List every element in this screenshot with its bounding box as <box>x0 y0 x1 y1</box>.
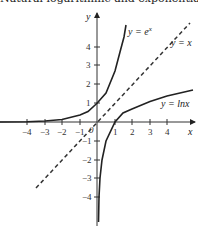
identity-line-label: y = x <box>170 37 192 48</box>
x-tick-label: 3 <box>148 127 153 137</box>
y-axis-label: y <box>85 11 91 22</box>
exp-curve-label: y = ex <box>127 25 153 37</box>
y-tick-label: −2 <box>82 155 92 165</box>
ln-curve-label: y = lnx <box>160 98 190 109</box>
x-tick-label: −2 <box>57 127 67 137</box>
y-tick-label: 3 <box>86 60 91 70</box>
x-tick-label: −4 <box>22 127 32 137</box>
exp-label-base: y = e <box>127 26 149 37</box>
y-tick-label: 4 <box>86 42 91 52</box>
ln-curve <box>99 90 194 222</box>
exp-curve <box>0 25 126 122</box>
x-tick-label: −3 <box>40 127 50 137</box>
y-tick-label: −3 <box>82 173 92 183</box>
exp-label-superscript: x <box>148 25 153 33</box>
y-tick-label: −1 <box>82 136 92 146</box>
x-tick-label: 2 <box>130 127 135 137</box>
y-tick-label: −4 <box>82 192 92 202</box>
y-tick-label: 1 <box>86 98 91 108</box>
y-tick-label: 2 <box>86 79 91 89</box>
chart-canvas: −4 −3 −2 −1 1 2 3 4 4 3 2 1 −1 −2 −3 −4 … <box>0 0 198 229</box>
x-tick-label: 4 <box>165 127 170 137</box>
x-axis-label: x <box>187 126 193 137</box>
x-tick-label: 1 <box>113 127 118 137</box>
